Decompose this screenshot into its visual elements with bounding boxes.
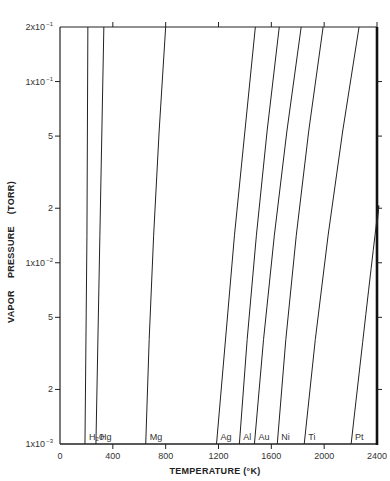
x-tick-label: 1600	[261, 451, 281, 461]
x-tick-label: 400	[105, 451, 120, 461]
series-labels: H₂0HgMgAgAlAuNiTiPt	[89, 432, 364, 442]
series-label-ti: Ti	[308, 432, 315, 442]
series-label-pt: Pt	[355, 432, 364, 442]
series-label-au: Au	[258, 432, 269, 442]
curve-hg	[96, 27, 104, 444]
x-tick-label: 1200	[208, 451, 228, 461]
y-tick-label: 5	[48, 131, 53, 141]
x-tick-label: 0	[57, 451, 62, 461]
curve-ti	[304, 27, 359, 444]
curve-pt	[351, 205, 379, 444]
y-axis-title-text: VAPORPRESSURE(TORR)	[6, 181, 16, 323]
curve-ag	[217, 27, 256, 444]
y-tick-label: 2	[48, 203, 53, 213]
y-tick-label: 5	[48, 312, 53, 322]
axes: 040080012001600200024002x10 −11x10 −1521…	[25, 21, 387, 461]
y-axis-title: VAPORPRESSURE(TORR)	[6, 181, 16, 323]
y-tick-label: 1x10 −3	[25, 438, 53, 449]
series-label-al: Al	[243, 432, 251, 442]
x-tick-label: 2400	[367, 451, 387, 461]
series-label-ni: Ni	[281, 432, 290, 442]
vapor-pressure-chart: 040080012001600200024002x10 −11x10 −1521…	[0, 0, 390, 481]
y-tick-label: 2x10 −1	[25, 21, 53, 32]
curve-au	[254, 27, 301, 444]
curve-ni	[277, 27, 323, 444]
curve-h2o	[85, 27, 88, 444]
y-tick-label: 2	[48, 384, 53, 394]
series-label-hg: Hg	[100, 432, 112, 442]
curve-mg	[146, 27, 166, 444]
x-axis-title: TEMPERATURE (°K)	[169, 466, 260, 476]
x-tick-label: 2000	[314, 451, 334, 461]
x-tick-label: 800	[158, 451, 173, 461]
curves	[85, 27, 379, 444]
y-tick-label: 1x10 −1	[25, 76, 53, 87]
y-tick-label: 1x10 −2	[25, 257, 53, 268]
series-label-ag: Ag	[221, 432, 232, 442]
series-label-mg: Mg	[150, 432, 163, 442]
